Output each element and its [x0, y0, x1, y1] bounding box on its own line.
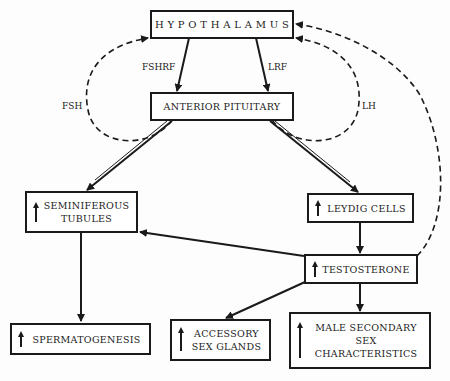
label-lh: LH: [362, 101, 376, 111]
node-label-line: SEX: [355, 335, 376, 346]
node-male-secondary-sex-characteristics: MALE SECONDARY SEX CHARACTERISTICS: [289, 312, 431, 369]
node-label-line: SEX GLANDS: [192, 341, 261, 352]
increase-arrow-icon: [32, 202, 40, 222]
label-lrf: LRF: [268, 62, 287, 72]
increase-arrow-icon: [296, 322, 304, 358]
node-label-group: MALE SECONDARY SEX CHARACTERISTICS: [315, 321, 418, 360]
node-label: ANTERIOR PITUITARY: [164, 100, 281, 113]
node-label-line: MALE SECONDARY: [315, 322, 416, 333]
dashed-feedback-lh: [272, 38, 359, 141]
node-testosterone: TESTOSTERONE: [304, 254, 418, 284]
increase-arrow-icon: [311, 261, 319, 277]
node-spermatogenesis: SPERMATOGENESIS: [10, 323, 151, 355]
node-label-line: TUBULES: [61, 213, 112, 224]
node-seminiferous-tubules: SEMINIFEROUS TUBULES: [25, 191, 138, 233]
node-label-line: SEMINIFEROUS: [44, 200, 130, 211]
node-label: SPERMATOGENESIS: [32, 333, 140, 346]
node-label: H Y P O T H A L A M U S: [155, 18, 289, 31]
node-label-group: SEMINIFEROUS TUBULES: [44, 199, 130, 225]
hormone-regulation-diagram: FSHRF LRF FSH LH H Y P O T H A L A M U S…: [0, 0, 450, 381]
node-label-group: ACCESSORY SEX GLANDS: [192, 327, 261, 353]
label-fsh: FSH: [62, 101, 82, 111]
node-accessory-sex-glands: ACCESSORY SEX GLANDS: [170, 319, 271, 361]
increase-arrow-icon: [17, 331, 25, 347]
arrow-lrf: [256, 38, 268, 91]
node-label-line: ACCESSORY: [194, 328, 259, 339]
label-fshrf: FSHRF: [142, 62, 175, 72]
node-anterior-pituitary: ANTERIOR PITUITARY: [150, 92, 294, 121]
increase-arrow-icon: [177, 327, 185, 351]
node-label-line: CHARACTERISTICS: [315, 348, 418, 359]
arrow-fshrf: [177, 38, 189, 91]
node-leydig-cells: LEYDIG CELLS: [307, 193, 414, 223]
dashed-feedback-fsh: [87, 38, 172, 141]
increase-arrow-icon: [314, 200, 322, 216]
node-label: TESTOSTERONE: [322, 263, 409, 276]
node-label: LEYDIG CELLS: [327, 202, 405, 215]
node-hypothalamus: H Y P O T H A L A M U S: [150, 10, 294, 39]
